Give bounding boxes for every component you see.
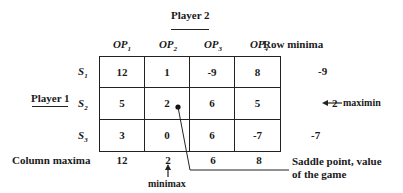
annotation-arrows (0, 0, 403, 193)
arrow-left-icon (322, 100, 328, 106)
arrow-up-icon (165, 164, 171, 170)
